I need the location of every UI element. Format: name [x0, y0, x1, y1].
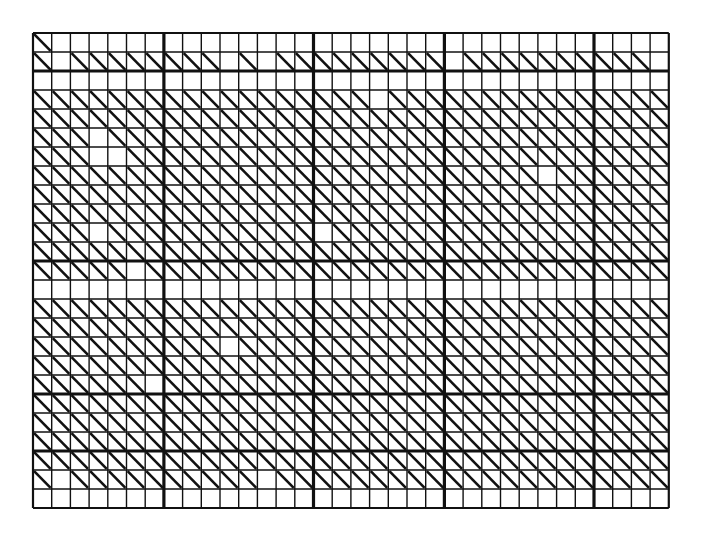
- cell-diagonal: [595, 338, 611, 355]
- cell-diagonal: [34, 300, 50, 317]
- cell-diagonal: [632, 357, 648, 374]
- cell-diagonal: [128, 186, 144, 203]
- cell-diagonal: [651, 471, 667, 488]
- cell-diagonal: [53, 262, 69, 279]
- cell-diagonal: [483, 471, 499, 488]
- cell-diagonal: [53, 243, 69, 260]
- cell-diagonal: [502, 129, 518, 146]
- cell-diagonal: [408, 243, 424, 260]
- cell-diagonal: [333, 319, 349, 336]
- cell-diagonal: [333, 433, 349, 450]
- cell-diagonal: [427, 129, 443, 146]
- cell-diagonal: [333, 205, 349, 222]
- cell-diagonal: [464, 376, 480, 393]
- cell-diagonal: [146, 357, 162, 374]
- cell-diagonal: [146, 452, 162, 469]
- cell-diagonal: [128, 205, 144, 222]
- cell-diagonal: [595, 357, 611, 374]
- cell-diagonal: [90, 471, 106, 488]
- cell-diagonal: [464, 395, 480, 412]
- cell-diagonal: [221, 167, 237, 184]
- cell-diagonal: [202, 452, 218, 469]
- cell-diagonal: [109, 395, 125, 412]
- cell-diagonal: [258, 262, 274, 279]
- cell-diagonal: [502, 300, 518, 317]
- cell-diagonal: [595, 376, 611, 393]
- cell-diagonal: [315, 357, 331, 374]
- cell-diagonal: [184, 91, 200, 108]
- cell-diagonal: [333, 110, 349, 127]
- cell-diagonal: [520, 395, 536, 412]
- cell-diagonal: [333, 91, 349, 108]
- cell-diagonal: [221, 357, 237, 374]
- cell-diagonal: [595, 414, 611, 431]
- cell-diagonal: [389, 433, 405, 450]
- cell-diagonal: [202, 414, 218, 431]
- cell-diagonal: [651, 243, 667, 260]
- cell-diagonal: [128, 129, 144, 146]
- cell-diagonal: [109, 452, 125, 469]
- cell-diagonal: [71, 224, 87, 241]
- cell-diagonal: [128, 53, 144, 70]
- cell-diagonal: [352, 338, 368, 355]
- cell-diagonal: [165, 148, 181, 165]
- cell-diagonal: [595, 395, 611, 412]
- cell-diagonal: [464, 205, 480, 222]
- cell-diagonal: [632, 300, 648, 317]
- cell-diagonal: [632, 53, 648, 70]
- cell-diagonal: [483, 357, 499, 374]
- cell-diagonal: [221, 205, 237, 222]
- cell-diagonal: [371, 205, 387, 222]
- cell-diagonal: [558, 224, 574, 241]
- cell-diagonal: [277, 357, 293, 374]
- cell-diagonal: [445, 471, 461, 488]
- cell-diagonal: [502, 148, 518, 165]
- cell-diagonal: [34, 34, 50, 51]
- cell-diagonal: [333, 224, 349, 241]
- cell-diagonal: [240, 433, 256, 450]
- cell-diagonal: [595, 186, 611, 203]
- cell-diagonal: [277, 91, 293, 108]
- cell-diagonal: [221, 395, 237, 412]
- cell-diagonal: [632, 129, 648, 146]
- cell-diagonal: [146, 395, 162, 412]
- cell-diagonal: [296, 395, 312, 412]
- cell-diagonal: [165, 205, 181, 222]
- cell-diagonal: [277, 395, 293, 412]
- cell-diagonal: [595, 224, 611, 241]
- cell-diagonal: [464, 471, 480, 488]
- cell-diagonal: [240, 357, 256, 374]
- cell-diagonal: [202, 338, 218, 355]
- cell-diagonal: [165, 167, 181, 184]
- cell-diagonal: [595, 205, 611, 222]
- cell-diagonal: [632, 110, 648, 127]
- cell-diagonal: [371, 243, 387, 260]
- cell-diagonal: [558, 414, 574, 431]
- cell-diagonal: [352, 471, 368, 488]
- cell-diagonal: [408, 262, 424, 279]
- cell-diagonal: [296, 300, 312, 317]
- cell-diagonal: [240, 376, 256, 393]
- cell-diagonal: [109, 357, 125, 374]
- cell-diagonal: [445, 357, 461, 374]
- cell-diagonal: [34, 148, 50, 165]
- cell-diagonal: [34, 319, 50, 336]
- cell-diagonal: [502, 471, 518, 488]
- cell-diagonal: [632, 414, 648, 431]
- cell-diagonal: [371, 300, 387, 317]
- cell-diagonal: [539, 300, 555, 317]
- cell-diagonal: [632, 471, 648, 488]
- cell-diagonal: [520, 452, 536, 469]
- cell-diagonal: [184, 53, 200, 70]
- cell-diagonal: [71, 110, 87, 127]
- cell-diagonal: [352, 91, 368, 108]
- cell-diagonal: [502, 53, 518, 70]
- cell-diagonal: [595, 167, 611, 184]
- cell-diagonal: [315, 91, 331, 108]
- cell-diagonal: [146, 300, 162, 317]
- cell-diagonal: [34, 471, 50, 488]
- cell-diagonal: [427, 224, 443, 241]
- cell-diagonal: [352, 414, 368, 431]
- cell-diagonal: [502, 414, 518, 431]
- cell-diagonal: [221, 91, 237, 108]
